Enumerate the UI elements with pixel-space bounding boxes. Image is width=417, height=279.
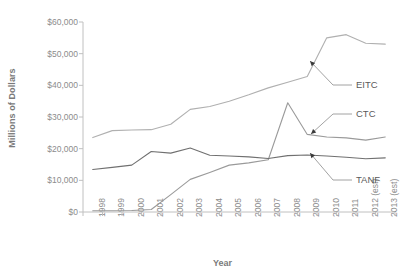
callout-leader-eitc [310,61,352,85]
series-label-ctc: CTC [356,108,376,119]
series-line-tanf [93,148,386,170]
series-label-eitc: EITC [356,79,378,90]
series-label-tanf: TANF [356,174,380,185]
x-axis-title-text: Year [213,258,232,268]
x-axis-title: Year [0,258,417,268]
chart-container: Millions of Dollars $60,000$50,000$40,00… [0,0,417,279]
series-line-eitc [93,35,386,138]
callout-leader-ctc [311,114,352,134]
plot-area [0,0,417,279]
